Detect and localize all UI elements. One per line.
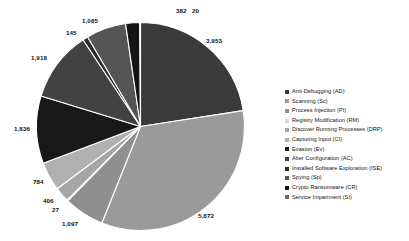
- legend-swatch-icon: [285, 195, 289, 199]
- legend-swatch-icon: [285, 99, 289, 103]
- legend-swatch-icon: [285, 90, 289, 94]
- legend-item[interactable]: Discover Running Processes (DRP): [285, 125, 409, 135]
- pie-chart-figure: 382 20 1,085 145 1,918 1,836 784 406 27 …: [0, 0, 409, 241]
- legend-swatch-icon: [285, 157, 289, 161]
- legend-item-label: Installed Software Exploration (ISE): [292, 166, 382, 172]
- legend-swatch-icon: [285, 176, 289, 180]
- legend-item-label: Spying (Sp): [292, 175, 322, 181]
- legend-item-label: Scanning (Sc): [292, 99, 328, 105]
- legend-item[interactable]: Spying (Sp): [285, 173, 409, 183]
- data-label-service-impairment: 20: [192, 8, 199, 14]
- legend-item[interactable]: Crypto Ransomware (CR): [285, 183, 409, 193]
- legend-item[interactable]: Installed Software Exploration (ISE): [285, 164, 409, 174]
- legend-item[interactable]: Scanning (Sc): [285, 97, 409, 107]
- legend-item-label: Anti-Debugging (AD): [292, 89, 345, 95]
- legend-item-label: Process Injection (PI): [292, 108, 346, 114]
- legend-item[interactable]: Alter Configuration (AC): [285, 154, 409, 164]
- legend-item[interactable]: Registry Modification (RM): [285, 116, 409, 126]
- data-label-capturing-input: 784: [33, 179, 44, 185]
- data-label-alter-configuration: 1,918: [31, 55, 47, 61]
- data-label-process-injection: 1,097: [62, 221, 78, 227]
- pie-slice[interactable]: [140, 22, 141, 126]
- legend-swatch-icon: [285, 186, 289, 190]
- legend-swatch-icon: [285, 119, 289, 123]
- legend-item[interactable]: Process Injection (PI): [285, 106, 409, 116]
- data-label-registry-modification: 27: [52, 207, 59, 213]
- legend-item-label: Alter Configuration (AC): [292, 156, 353, 162]
- data-label-installed-software-exploration: 145: [66, 30, 77, 36]
- data-label-crypto-ransomware: 382: [176, 8, 187, 14]
- legend-swatch-icon: [285, 167, 289, 171]
- legend-item[interactable]: Capturing Input (CI): [285, 135, 409, 145]
- legend-swatch-icon: [285, 128, 289, 132]
- chart-legend: Anti-Debugging (AD)Scanning (Sc)Process …: [285, 87, 409, 202]
- legend-item[interactable]: Evasion (Ev): [285, 145, 409, 155]
- legend-item-label: Evasion (Ev): [292, 147, 324, 153]
- data-label-evasion: 1,836: [14, 126, 30, 132]
- legend-item-label: Service Impairment (SI): [292, 195, 352, 201]
- legend-item-label: Capturing Input (CI): [292, 137, 342, 143]
- legend-item-label: Discover Running Processes (DRP): [292, 127, 383, 133]
- legend-swatch-icon: [285, 147, 289, 151]
- legend-swatch-icon: [285, 138, 289, 142]
- data-label-scanning: 5,872: [198, 213, 214, 219]
- legend-item[interactable]: Service Impairment (SI): [285, 193, 409, 203]
- legend-item-label: Crypto Ransomware (CR): [292, 185, 357, 191]
- legend-item-label: Registry Modification (RM): [292, 118, 359, 124]
- legend-swatch-icon: [285, 109, 289, 113]
- data-label-discover-running-processes: 406: [43, 198, 54, 204]
- pie-slice[interactable]: [141, 23, 244, 127]
- data-label-spying: 1,085: [82, 18, 98, 24]
- data-label-anti-debugging: 3,953: [206, 38, 222, 44]
- pie-plot-area: 382 20 1,085 145 1,918 1,836 784 406 27 …: [0, 0, 281, 241]
- pie-svg: [0, 0, 281, 241]
- legend-item[interactable]: Anti-Debugging (AD): [285, 87, 409, 97]
